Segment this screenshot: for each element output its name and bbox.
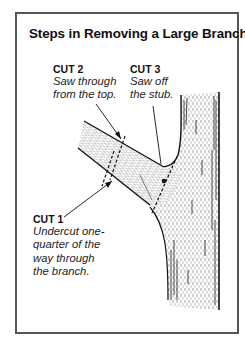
cut-3-text-line-1: Saw off <box>130 75 173 88</box>
cut-3-heading: CUT 3 <box>130 63 173 75</box>
cut-3-text-line-2: the stub. <box>130 88 173 101</box>
cut-3-label: CUT 3 Saw off the stub. <box>130 63 173 102</box>
cut-1-text-line-4: the branch. <box>33 265 105 278</box>
cut-1-text-line-1: Undercut one- <box>33 225 105 238</box>
cut-1-text-line-3: way through <box>33 252 105 265</box>
tree-branch-illustration <box>0 0 245 348</box>
cut-2-heading: CUT 2 <box>53 63 116 75</box>
cut-2-text-line-1: Saw through <box>53 75 116 88</box>
cut-2-text-line-2: from the top. <box>53 88 116 101</box>
cut-2-label: CUT 2 Saw through from the top. <box>53 63 116 102</box>
cut-1-text-line-2: quarter of the <box>33 238 105 251</box>
cut-1-heading: CUT 1 <box>33 213 105 225</box>
cut-1-label: CUT 1 Undercut one- quarter of the way t… <box>33 213 105 278</box>
